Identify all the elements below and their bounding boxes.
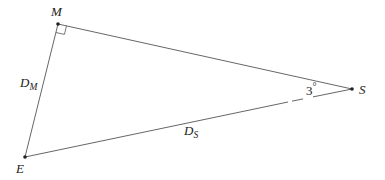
point-m: [56, 22, 60, 26]
side-ms: [58, 24, 352, 89]
diagram-svg: M S E DM DS 3°: [0, 0, 385, 180]
point-e: [23, 155, 27, 159]
label-e: E: [15, 161, 24, 176]
point-s: [350, 87, 354, 91]
label-ds: DS: [183, 123, 198, 140]
triangle-diagram: M S E DM DS 3°: [0, 0, 385, 180]
angle-label-s: 3°: [306, 81, 317, 98]
label-s: S: [359, 82, 366, 97]
label-m: M: [50, 4, 63, 19]
side-es-segment: [292, 99, 303, 101]
label-dm: DM: [19, 75, 38, 92]
side-es: [25, 102, 288, 157]
side-es-segment: [313, 89, 352, 97]
